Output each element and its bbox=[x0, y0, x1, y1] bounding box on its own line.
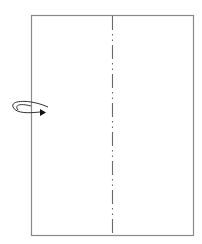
origami-diagram bbox=[0, 0, 202, 244]
